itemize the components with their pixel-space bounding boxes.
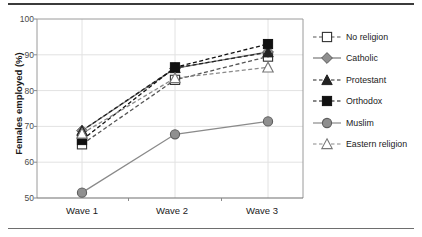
legend-label: Orthodox: [346, 96, 382, 106]
legend-key-filled-square-icon: [312, 94, 342, 108]
legend-item-protestant: Protestant: [312, 69, 420, 91]
legend-item-muslim: Muslim: [312, 112, 420, 134]
legend-label: Muslim: [346, 118, 374, 128]
legend-label: Protestant: [346, 75, 386, 85]
legend-item-catholic: Catholic: [312, 48, 420, 70]
legend-item-orthodox: Orthodox: [312, 91, 420, 113]
legend-key-diamond-icon: [312, 51, 342, 65]
chart-figure: Females employed (%) 100 90 80 70 60 50 …: [0, 0, 422, 237]
legend-label: No religion: [346, 32, 388, 42]
axis-ticks: [34, 19, 222, 201]
legend-label: Catholic: [346, 53, 378, 63]
legend-label: Eastern religion: [346, 139, 407, 149]
legend-item-no-religion: No religion: [312, 26, 420, 48]
legend-key-filled-triangle-icon: [312, 73, 342, 87]
legend-key-open-triangle-icon: [312, 137, 342, 151]
legend-key-filled-circle-icon: [312, 116, 342, 130]
legend-item-eastern-religion: Eastern religion: [312, 134, 420, 156]
chart-legend: No religion Catholic Protestant Orthodox…: [312, 26, 420, 155]
legend-key-open-square-icon: [312, 30, 342, 44]
